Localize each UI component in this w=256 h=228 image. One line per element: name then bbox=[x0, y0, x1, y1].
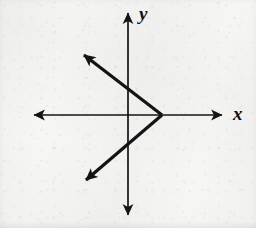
coordinate-plane-svg bbox=[0, 0, 256, 228]
graph-lower-ray bbox=[86, 115, 162, 180]
y-axis-label: y bbox=[139, 4, 147, 23]
graph-figure: y x bbox=[0, 0, 256, 228]
graph-upper-ray bbox=[84, 55, 162, 115]
x-axis-label: x bbox=[233, 104, 243, 123]
